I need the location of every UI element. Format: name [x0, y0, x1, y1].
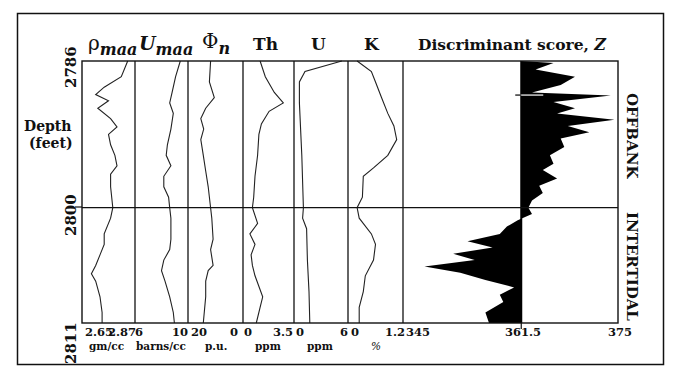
z-baseline-line — [520, 61, 522, 323]
unit-k: % — [371, 340, 381, 352]
discriminant-area — [425, 61, 615, 323]
unit-rho: gm/cc — [89, 340, 124, 352]
k-max: 1.2 — [385, 325, 405, 339]
phi-max: 0 — [230, 325, 238, 339]
depth-tick-mid: 2800 — [62, 194, 80, 236]
header-th: Th — [253, 34, 278, 54]
header-discriminant: Discriminant score, Z — [418, 35, 607, 54]
plot-area — [82, 61, 618, 329]
umaa-max: 10 — [172, 325, 188, 339]
well-log-chart: ρmaa Umaa Φn Th U K Discriminant score, … — [0, 0, 676, 378]
depth-unit: (feet) — [29, 135, 73, 151]
umaa-min: 6 — [135, 325, 143, 339]
unit-phi: p.u. — [205, 340, 227, 352]
u-max: 6 — [340, 325, 348, 339]
z-max: 375 — [608, 325, 632, 339]
unit-u: ppm — [307, 340, 333, 352]
curve-k — [357, 61, 397, 323]
curve-u — [299, 61, 341, 323]
u-min: 0 — [296, 325, 304, 339]
header-phi-n: Φn — [202, 29, 230, 58]
header-rho-maa: ρmaa — [88, 31, 137, 59]
header-k: K — [364, 34, 380, 54]
depth-tick-bottom: 2811 — [62, 322, 80, 364]
phi-min: 20 — [191, 325, 207, 339]
th-min: 0 — [244, 325, 252, 339]
unit-th: ppm — [255, 340, 281, 352]
figure-frame — [18, 14, 664, 365]
z-baseline: 361.5 — [505, 325, 541, 339]
curve-phi-n — [201, 61, 215, 323]
header-u: U — [311, 34, 326, 54]
track-headers: ρmaa Umaa Φn Th U K Discriminant score, … — [88, 29, 607, 59]
depth-axis: 2786 2800 2811 Depth (feet) — [24, 46, 82, 364]
scale-labels: 2.65 2.87 6 10 20 0 0 3.5 0 6 0 1.2 345 … — [85, 325, 632, 352]
unit-umaa: barns/cc — [136, 340, 186, 352]
depth-tick-top: 2786 — [62, 46, 80, 88]
curve-rho-maa — [91, 61, 127, 323]
depth-label: Depth — [24, 118, 71, 134]
k-min: 0 — [351, 325, 359, 339]
zone-label-intertidal: INTERTIDAL — [623, 212, 641, 321]
header-u-maa: Umaa — [139, 32, 193, 59]
rho-max: 2.87 — [108, 325, 136, 339]
curve-th — [250, 61, 283, 323]
z-min: 345 — [406, 325, 430, 339]
curve-u-maa — [162, 61, 181, 323]
th-max: 3.5 — [273, 325, 293, 339]
zone-label-offbank: OFFBANK — [623, 93, 641, 179]
